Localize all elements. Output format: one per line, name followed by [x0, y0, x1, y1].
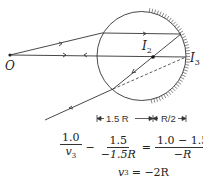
result-equation: v3 = −2R	[118, 166, 169, 179]
dimension-1-5R: 1.5 R	[106, 113, 129, 124]
principal-axis-ray	[10, 55, 186, 57]
image3-label: I3	[190, 52, 200, 67]
fraction-1-5-over-minus-1-5R: 1.5 −1.5R	[99, 134, 138, 161]
image2-label: I2	[142, 40, 152, 55]
emergent-ray	[45, 89, 113, 120]
lens-equation: 1.0 v3 − 1.5 −1.5R = 1.0 − 1.5 −R	[58, 131, 203, 163]
dashed-construction-line	[113, 57, 186, 89]
arrow-heads	[59, 32, 146, 109]
object-label: O	[5, 60, 15, 72]
fraction-1-over-v3: 1.0 v3	[60, 131, 82, 163]
image2-point	[151, 55, 155, 59]
refracted-ray	[102, 33, 181, 34]
mirror-hatching	[149, 8, 190, 103]
fraction-rhs: 1.0 − 1.5 −R	[155, 134, 203, 161]
incident-ray	[10, 33, 102, 55]
dimension-R-half: R/2	[161, 113, 176, 124]
